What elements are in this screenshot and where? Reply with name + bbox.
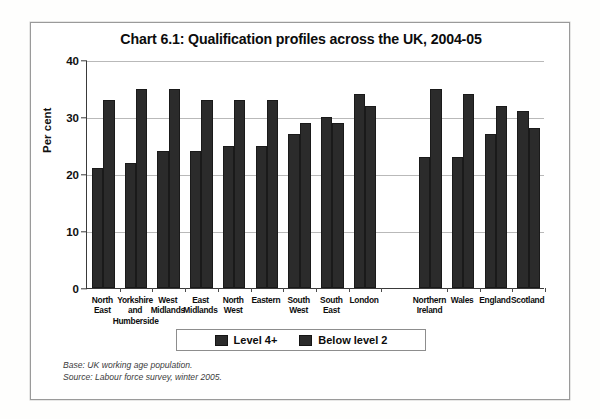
chart-frame: Chart 6.1: Qualification profiles across… (30, 22, 570, 400)
bar (169, 89, 180, 289)
bar (288, 134, 299, 288)
bar (267, 100, 278, 288)
bar-group (316, 61, 349, 288)
bar-group (414, 61, 447, 288)
x-tick-mark (480, 288, 481, 292)
x-tick-mark (218, 288, 219, 292)
y-tick-label-30: 30 (66, 112, 79, 124)
y-axis-label: Per cent (41, 108, 53, 153)
bar-group (480, 61, 513, 288)
bar (430, 89, 441, 289)
x-tick-mark (316, 288, 317, 292)
bar (332, 123, 343, 288)
x-tick-mark (349, 288, 350, 292)
bar-group (218, 61, 251, 288)
chart-page: Chart 6.1: Qualification profiles across… (0, 0, 600, 419)
bar (234, 100, 245, 288)
bar (496, 106, 507, 288)
bar (136, 89, 147, 289)
bar (223, 146, 234, 289)
bar-group (512, 61, 545, 288)
y-tick-label-40: 40 (66, 55, 79, 67)
bar-group (447, 61, 480, 288)
y-tick-label-20: 20 (66, 169, 79, 181)
note-source: Source: Labour force survey, winter 2005… (63, 371, 222, 383)
x-axis-label-scotland: Scotland (505, 295, 550, 305)
x-tick-mark (381, 288, 382, 292)
legend-item-level-4-plus: Level 4+ (215, 334, 278, 346)
bar (485, 134, 496, 288)
bar (463, 94, 474, 288)
bar (365, 106, 376, 288)
bar-group (185, 61, 218, 288)
y-tick-label-10: 10 (66, 226, 79, 238)
bar (92, 168, 103, 288)
bar (354, 94, 365, 288)
chart-notes: Base: UK working age population. Source:… (63, 359, 222, 383)
bar-group (152, 61, 185, 288)
note-base: Base: UK working age population. (63, 359, 222, 371)
legend-swatch-level-4-plus (215, 335, 228, 346)
plot-area: 010203040 (86, 61, 544, 289)
y-tick-mark-0 (81, 288, 87, 289)
bar-group (283, 61, 316, 288)
chart-title: Chart 6.1: Qualification profiles across… (31, 31, 571, 47)
x-axis-label-london: London (342, 295, 387, 305)
x-tick-mark (545, 288, 546, 292)
x-tick-mark (152, 288, 153, 292)
bar-group (87, 61, 120, 288)
bar (157, 151, 168, 288)
bar (452, 157, 463, 288)
bar (529, 128, 540, 288)
legend-swatch-below-level-2 (299, 335, 312, 346)
x-tick-mark (251, 288, 252, 292)
x-tick-mark (185, 288, 186, 292)
x-tick-mark (120, 288, 121, 292)
x-tick-mark (283, 288, 284, 292)
y-tick-label-0: 0 (73, 283, 79, 295)
bar-group (120, 61, 153, 288)
bar (419, 157, 430, 288)
bar (256, 146, 267, 289)
bar (125, 163, 136, 288)
legend-item-below-level-2: Below level 2 (299, 334, 387, 346)
bar (300, 123, 311, 288)
bar (517, 111, 528, 288)
bar (103, 100, 114, 288)
x-tick-mark (447, 288, 448, 292)
chart-legend: Level 4+ Below level 2 (176, 329, 426, 351)
bar (321, 117, 332, 288)
legend-label-below-level-2: Below level 2 (318, 334, 387, 346)
x-tick-mark (512, 288, 513, 292)
bar-group (349, 61, 382, 288)
bar (201, 100, 212, 288)
legend-label-level-4-plus: Level 4+ (234, 334, 278, 346)
bar-group (251, 61, 284, 288)
bar (190, 151, 201, 288)
